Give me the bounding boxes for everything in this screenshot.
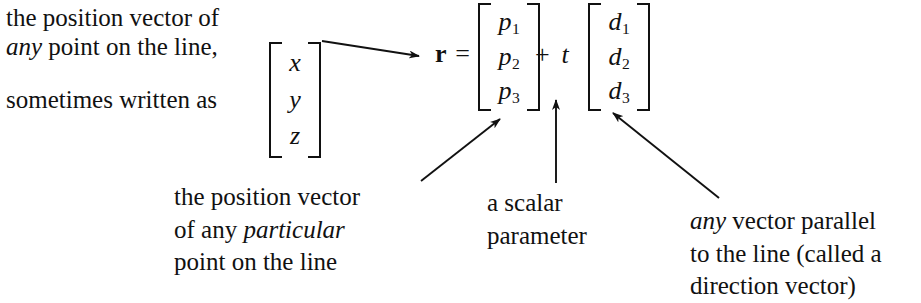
xyz-entries: x y z — [282, 42, 308, 158]
d-entry-1-base: d — [609, 7, 622, 36]
arrow-position-caption-to-p-vector — [421, 119, 500, 181]
caption-scalar-line-2: parameter — [487, 220, 587, 253]
arrow-direction-caption-to-d-vector — [613, 113, 719, 198]
d-entry-2-base: d — [609, 42, 622, 71]
right-bracket-xyz — [308, 42, 321, 158]
intro-text-line-1: the position vector of — [6, 2, 219, 35]
xyz-column-vector: x y z — [269, 42, 321, 158]
equation-plus-scalar: + t — [535, 38, 569, 72]
xyz-entry-y: y — [285, 82, 305, 118]
caption-scalar-parameter: a scalar parameter — [487, 187, 587, 252]
p-column-vector: p1 p2 p3 — [478, 3, 540, 111]
xyz-entry-z: z — [285, 118, 305, 154]
d-entry-2: d2 — [604, 40, 634, 75]
left-bracket-d — [588, 3, 601, 111]
arrow-intro-to-equation — [322, 41, 419, 56]
caption-direction-line-2: to the line (called a — [690, 238, 882, 271]
caption-emphasis-particular: particular — [243, 216, 344, 243]
equation-left-hand-side: r = — [435, 37, 470, 71]
d-entry-1: d1 — [604, 5, 634, 40]
caption-direction-line-1-rest: vector parallel — [726, 207, 876, 234]
p-entry-1-subscript: 1 — [512, 20, 520, 37]
p-entry-2-subscript: 2 — [512, 55, 520, 72]
vector-r-symbol: r — [435, 39, 447, 68]
d-entries: d1 d2 d3 — [601, 3, 637, 111]
plus-sign: + — [535, 40, 550, 69]
intro-text-line-2-rest: point on the line, — [42, 33, 218, 60]
left-bracket-xyz — [269, 42, 282, 158]
d-entry-3-subscript: 3 — [622, 89, 630, 106]
caption-direction-line-1: any vector parallel — [690, 205, 882, 238]
p-entries: p1 p2 p3 — [491, 3, 527, 111]
right-bracket-d — [637, 3, 650, 111]
p-entry-1: p1 — [494, 5, 524, 40]
caption-position-vector-line-1: the position vector — [174, 181, 360, 214]
d-entry-1-subscript: 1 — [622, 20, 630, 37]
p-entry-2: p2 — [494, 40, 524, 75]
d-column-vector: d1 d2 d3 — [588, 3, 650, 111]
d-entry-2-subscript: 2 — [622, 55, 630, 72]
caption-emphasis-any: any — [690, 207, 726, 234]
caption-direction-vector: any vector parallel to the line (called … — [690, 205, 882, 303]
caption-scalar-line-1: a scalar — [487, 187, 587, 220]
intro-text-line-3: sometimes written as — [6, 84, 217, 117]
p-entry-1-base: p — [499, 7, 512, 36]
p-entry-3-subscript: 3 — [512, 89, 520, 106]
intro-emphasis-any: any — [6, 33, 42, 60]
caption-direction-line-3: direction vector) — [690, 270, 882, 303]
xyz-entry-x: x — [285, 45, 305, 81]
d-entry-3: d3 — [604, 74, 634, 109]
caption-position-vector-line-3: point on the line — [174, 246, 360, 279]
equals-sign: = — [455, 39, 470, 68]
caption-position-vector: the position vector of any particular po… — [174, 181, 360, 279]
left-bracket-p — [478, 3, 491, 111]
scalar-parameter-t: t — [561, 40, 568, 69]
p-entry-3-base: p — [499, 76, 512, 105]
d-entry-3-base: d — [609, 76, 622, 105]
intro-text-line-2: any point on the line, — [6, 31, 218, 64]
caption-position-vector-line-2: of any particular — [174, 214, 360, 247]
p-entry-2-base: p — [499, 42, 512, 71]
p-entry-3: p3 — [494, 74, 524, 109]
caption-position-vector-line-2-prefix: of any — [174, 216, 243, 243]
